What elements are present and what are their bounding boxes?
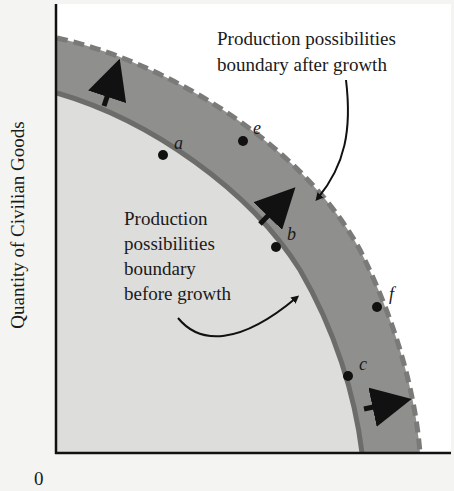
point-e-label: e: [253, 118, 261, 138]
ppf-diagram: a e b f c Production possibilities bound…: [0, 0, 454, 491]
point-f: [372, 302, 382, 312]
point-a-label: a: [174, 133, 183, 153]
after-growth-label-line2: boundary after growth: [217, 54, 387, 75]
point-e: [238, 136, 248, 146]
y-axis-label: Quantity of Civilian Goods: [7, 121, 28, 328]
point-c-label: c: [359, 354, 367, 374]
before-growth-label-line2: possibilities: [124, 233, 215, 254]
before-growth-label-line4: before growth: [124, 283, 232, 304]
after-growth-label-line1: Production possibilities: [217, 28, 396, 49]
point-c: [343, 371, 353, 381]
point-a: [158, 150, 168, 160]
point-b: [271, 242, 281, 252]
point-b-label: b: [287, 224, 296, 244]
before-growth-label-line3: boundary: [124, 258, 196, 279]
origin-label: 0: [34, 468, 44, 489]
before-growth-label-line1: Production: [124, 208, 208, 229]
